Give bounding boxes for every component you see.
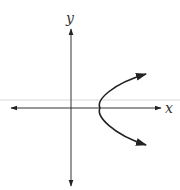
- x-axis-label: x: [165, 100, 173, 116]
- coordinate-plane-figure: y x: [0, 0, 180, 190]
- parabola-curve: [99, 74, 146, 145]
- y-axis-label: y: [65, 10, 75, 26]
